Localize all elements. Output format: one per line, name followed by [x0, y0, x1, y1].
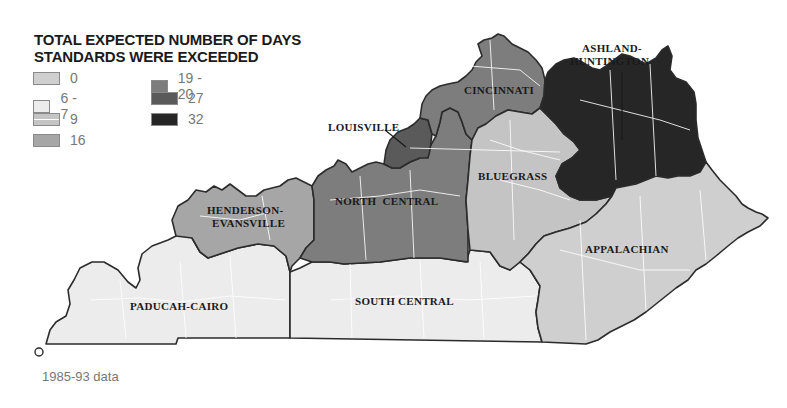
footnote: 1985-93 data [42, 369, 119, 384]
label-north-central: NORTH CENTRAL [335, 195, 438, 207]
kentucky-map: PADUCAH-CAIRO HENDERSON- EVANSVILLE NORT… [0, 0, 787, 408]
label-cincinnati: CINCINNATI [464, 84, 534, 96]
label-ashland-2: HUNTINGTON [570, 55, 649, 67]
label-louisville: LOUISVILLE [328, 121, 399, 133]
label-henderson-1: HENDERSON- [207, 204, 283, 216]
label-appalachian: APPALACHIAN [585, 243, 669, 255]
label-henderson-2: EVANSVILLE [212, 217, 285, 229]
label-south-central: SOUTH CENTRAL [355, 295, 454, 307]
label-ashland-1: ASHLAND- [582, 42, 642, 54]
label-bluegrass: BLUEGRASS [478, 170, 547, 182]
west-tip-loop [35, 348, 43, 356]
label-paducah-cairo: PADUCAH-CAIRO [130, 300, 229, 312]
